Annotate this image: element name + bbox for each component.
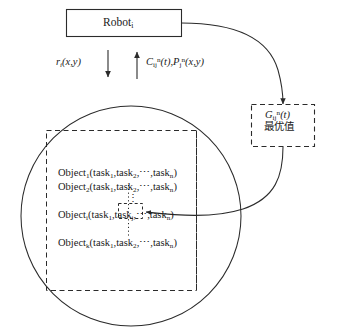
task-ellipsis: ⋯ bbox=[139, 237, 150, 248]
object-row-selected: Objecti(task1,taskj,⋯,taskn) bbox=[58, 210, 174, 222]
object-name: Object bbox=[58, 167, 86, 178]
task-n: task bbox=[150, 209, 167, 220]
cost-base: C bbox=[146, 56, 153, 67]
object-row: Objectk(task1,task2,⋯,taskn) bbox=[58, 238, 177, 250]
paren-close: ) bbox=[173, 181, 177, 192]
task-1: task bbox=[93, 167, 110, 178]
robot-node-label: Roboti bbox=[103, 17, 133, 30]
task-selected: task bbox=[115, 209, 132, 220]
vertical-ellipsis: ⋮ bbox=[128, 193, 138, 203]
diagram-canvas: Roboti ri(x,y) Cijn(t),Pjn(x,y) Gijn(t) … bbox=[0, 0, 338, 334]
object-name: Object bbox=[58, 209, 86, 220]
paren-close: ) bbox=[173, 237, 177, 248]
object-row: Object2(task1,task2,⋯,taskn) bbox=[58, 182, 177, 194]
gain-base: G bbox=[265, 109, 273, 120]
object-name: Object bbox=[58, 181, 86, 192]
robot-label-text: Robot bbox=[103, 16, 131, 28]
task-2: task bbox=[116, 181, 133, 192]
task-1: task bbox=[93, 181, 110, 192]
paren-close: ) bbox=[170, 209, 174, 220]
robot-label-subscript: i bbox=[131, 21, 133, 30]
reward-args: (x,y) bbox=[62, 56, 81, 67]
task-1: task bbox=[91, 209, 108, 220]
task-ellipsis: ⋯ bbox=[136, 209, 147, 220]
task-n: task bbox=[153, 181, 170, 192]
cost-position-label: Cijn(t),Pjn(x,y) bbox=[146, 57, 204, 69]
task-2: task bbox=[116, 237, 133, 248]
task-ellipsis: ⋯ bbox=[139, 167, 150, 178]
task-n: task bbox=[153, 237, 170, 248]
gain-args: (t) bbox=[280, 109, 290, 120]
task-1: task bbox=[93, 237, 110, 248]
reward-signal-label: ri(x,y) bbox=[56, 57, 81, 69]
object-name: Object bbox=[58, 237, 86, 248]
object-row: Object1(task1,task2,⋯,taskn) bbox=[58, 168, 177, 180]
position-args: (x,y) bbox=[185, 56, 204, 67]
task-ellipsis: ⋯ bbox=[139, 181, 150, 192]
paren-close: ) bbox=[173, 167, 177, 178]
cost-args: (t) bbox=[161, 56, 171, 67]
task-n: task bbox=[153, 167, 170, 178]
optimal-value-chinese-label: 最优值 bbox=[264, 121, 294, 132]
task-2: task bbox=[116, 167, 133, 178]
